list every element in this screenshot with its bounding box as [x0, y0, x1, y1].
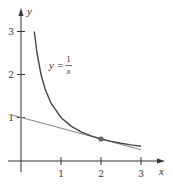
x-tick-label-1: 1 [58, 169, 64, 179]
y-axis-arrow-icon [19, 8, 24, 16]
x-tick-label-2: 2 [98, 169, 104, 179]
y-tick-labels: 1 2 3 [8, 27, 14, 123]
x-tick-label-3: 3 [138, 169, 144, 179]
x-axis-label: x [158, 165, 164, 177]
y-tick-label-2: 2 [8, 70, 14, 80]
equation-lhs: y = [48, 59, 64, 71]
axes [8, 8, 165, 172]
x-tick-labels: 1 2 3 [58, 169, 144, 179]
equation-numerator: 1 [66, 54, 71, 64]
chart-plot: 1 2 3 1 2 3 y x y = 1 x [0, 0, 173, 187]
equation-denominator: x [66, 66, 71, 76]
x-axis-arrow-icon [157, 159, 165, 164]
y-tick-label-3: 3 [8, 27, 14, 37]
equation-label: y = 1 x [48, 54, 72, 76]
y-axis-label: y [26, 5, 32, 17]
tangent-line [10, 115, 141, 150]
curve-reciprocal [34, 32, 141, 147]
tangency-point [98, 136, 103, 141]
